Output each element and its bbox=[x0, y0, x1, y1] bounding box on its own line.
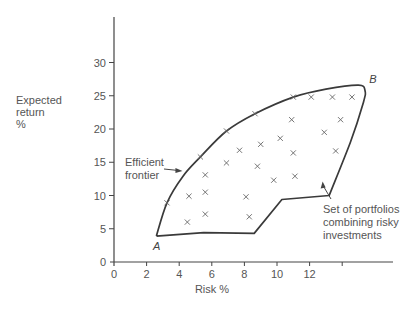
portfolio-point bbox=[271, 178, 276, 183]
portfolio-point bbox=[322, 130, 327, 135]
x-tick-label: 8 bbox=[241, 268, 247, 280]
y-tick-label: 0 bbox=[100, 256, 106, 268]
y-tick-label: 25 bbox=[94, 90, 106, 102]
axes: 024681012051015202530Risk %Expectedretur… bbox=[16, 17, 393, 295]
x-tick-label: 10 bbox=[271, 268, 283, 280]
portfolio-point bbox=[203, 190, 208, 195]
x-axis-label: Risk % bbox=[195, 283, 229, 295]
y-axis-label-line: Expected bbox=[16, 94, 62, 106]
x-tick-label: 0 bbox=[111, 268, 117, 280]
y-tick-label: 20 bbox=[94, 123, 106, 135]
portfolio-point bbox=[186, 194, 191, 199]
efficient-frontier-label: frontier bbox=[125, 169, 160, 181]
portfolio-point bbox=[292, 174, 297, 179]
efficient-frontier-arrow-line bbox=[164, 169, 177, 170]
portfolio-point bbox=[278, 136, 283, 141]
portfolio-point bbox=[203, 172, 208, 177]
y-tick-label: 30 bbox=[94, 57, 106, 69]
y-tick-label: 5 bbox=[100, 223, 106, 235]
portfolio-set-label: combining risky bbox=[323, 216, 399, 228]
portfolio-point bbox=[258, 142, 263, 147]
annotations: ABEfficientfrontierSet of portfolioscomb… bbox=[125, 73, 400, 252]
portfolio-point bbox=[291, 150, 296, 155]
portfolio-point bbox=[333, 148, 338, 153]
portfolio-point bbox=[247, 214, 252, 219]
portfolio-set-arrowhead bbox=[321, 182, 326, 189]
x-tick-label: 6 bbox=[209, 268, 215, 280]
y-axis-label-line: % bbox=[16, 118, 26, 130]
portfolio-point bbox=[237, 148, 242, 153]
y-tick-label: 15 bbox=[94, 156, 106, 168]
point-a-label: A bbox=[152, 240, 160, 252]
portfolio-point bbox=[203, 212, 208, 217]
point-b-label: B bbox=[369, 73, 376, 85]
x-tick-label: 12 bbox=[303, 268, 315, 280]
y-tick-label: 10 bbox=[94, 190, 106, 202]
efficient-frontier-arrowhead bbox=[175, 168, 182, 173]
portfolio-point bbox=[224, 128, 229, 133]
x-tick-label: 2 bbox=[144, 268, 150, 280]
portfolio-set-label: Set of portfolios bbox=[323, 203, 400, 215]
portfolio-point bbox=[289, 117, 294, 122]
x-tick-label: 4 bbox=[176, 268, 182, 280]
portfolio-point bbox=[255, 164, 260, 169]
portfolio-point bbox=[349, 94, 354, 99]
y-axis-label-line: return bbox=[16, 106, 45, 118]
efficient-frontier-chart: 024681012051015202530Risk %Expectedretur… bbox=[0, 0, 420, 309]
portfolio-point bbox=[198, 154, 203, 159]
efficient-frontier-label: Efficient bbox=[125, 156, 164, 168]
portfolio-point bbox=[330, 94, 335, 99]
portfolio-point bbox=[185, 220, 190, 225]
portfolio-set-label: investments bbox=[323, 229, 382, 241]
portfolio-point bbox=[224, 160, 229, 165]
portfolio-point bbox=[338, 117, 343, 122]
portfolio-point bbox=[243, 194, 248, 199]
portfolio-point bbox=[309, 94, 314, 99]
